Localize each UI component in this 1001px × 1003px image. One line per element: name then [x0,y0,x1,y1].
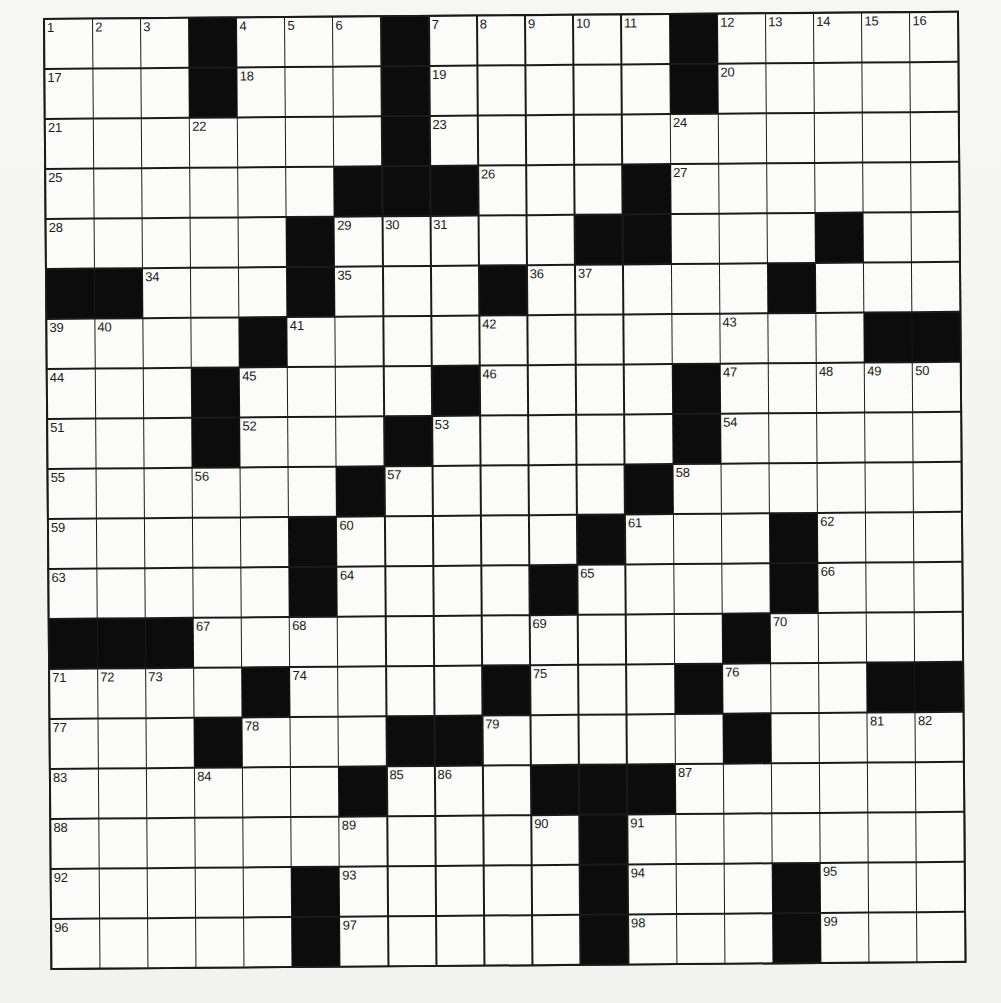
crossword-cell[interactable] [386,617,433,666]
crossword-cell[interactable] [433,466,480,515]
crossword-cell[interactable]: 37 [576,265,623,314]
crossword-cell[interactable]: 40 [95,319,142,368]
crossword-cell[interactable]: 5 [285,18,332,67]
crossword-cell[interactable] [389,916,436,965]
crossword-cell[interactable] [627,665,674,714]
crossword-cell[interactable] [191,218,238,267]
crossword-cell[interactable] [94,119,141,168]
crossword-cell[interactable] [142,69,189,118]
crossword-cell[interactable] [388,866,435,915]
crossword-cell[interactable]: 1 [45,20,92,69]
crossword-cell[interactable]: 63 [49,569,96,618]
crossword-cell[interactable]: 54 [721,414,768,463]
crossword-cell[interactable] [815,64,862,113]
crossword-cell[interactable] [244,818,291,867]
crossword-cell[interactable] [147,718,194,767]
crossword-cell[interactable] [142,119,189,168]
crossword-cell[interactable]: 91 [628,815,675,864]
crossword-cell[interactable] [239,268,286,317]
crossword-cell[interactable] [575,115,622,164]
crossword-cell[interactable] [677,914,724,963]
crossword-cell[interactable]: 57 [385,467,432,516]
crossword-cell[interactable] [100,869,147,918]
crossword-cell[interactable] [482,566,529,615]
crossword-cell[interactable] [434,566,481,615]
crossword-cell[interactable]: 41 [288,318,335,367]
crossword-cell[interactable]: 56 [193,468,240,517]
crossword-cell[interactable]: 67 [194,618,241,667]
crossword-cell[interactable] [772,764,819,813]
crossword-cell[interactable] [529,466,576,515]
crossword-cell[interactable] [914,513,961,562]
crossword-cell[interactable]: 97 [341,917,388,966]
crossword-cell[interactable] [911,63,958,112]
crossword-cell[interactable]: 21 [46,120,93,169]
crossword-cell[interactable] [288,368,335,417]
crossword-cell[interactable] [193,518,240,567]
crossword-cell[interactable]: 3 [141,19,188,68]
crossword-cell[interactable] [533,915,580,964]
crossword-cell[interactable] [724,814,771,863]
crossword-cell[interactable] [388,817,435,866]
crossword-cell[interactable] [912,263,959,312]
crossword-cell[interactable] [94,169,141,218]
crossword-cell[interactable] [815,114,862,163]
crossword-cell[interactable]: 52 [240,418,287,467]
crossword-cell[interactable] [529,366,576,415]
crossword-cell[interactable] [767,114,814,163]
crossword-cell[interactable] [336,317,383,366]
crossword-cell[interactable] [527,216,574,265]
crossword-cell[interactable] [145,469,192,518]
crossword-cell[interactable] [579,715,626,764]
crossword-cell[interactable]: 42 [480,316,527,365]
crossword-cell[interactable]: 34 [143,269,190,318]
crossword-cell[interactable] [385,517,432,566]
crossword-cell[interactable] [97,469,144,518]
crossword-cell[interactable] [624,265,671,314]
crossword-cell[interactable] [815,163,862,212]
crossword-cell[interactable] [532,865,579,914]
crossword-cell[interactable]: 68 [290,617,337,666]
crossword-cell[interactable]: 15 [862,13,909,62]
crossword-cell[interactable] [479,216,526,265]
crossword-cell[interactable]: 85 [387,767,434,816]
crossword-cell[interactable]: 27 [671,165,718,214]
crossword-cell[interactable] [144,319,191,368]
crossword-cell[interactable] [196,918,243,967]
crossword-cell[interactable] [769,314,816,363]
crossword-cell[interactable]: 99 [821,913,868,962]
crossword-cell[interactable]: 47 [721,364,768,413]
crossword-cell[interactable] [196,868,243,917]
crossword-cell[interactable] [434,516,481,565]
crossword-cell[interactable]: 72 [98,669,145,718]
crossword-cell[interactable]: 96 [52,919,99,968]
crossword-cell[interactable]: 65 [578,565,625,614]
crossword-cell[interactable] [96,369,143,418]
crossword-cell[interactable]: 48 [817,363,864,412]
crossword-cell[interactable] [917,912,964,961]
crossword-cell[interactable]: 81 [868,713,915,762]
crossword-cell[interactable] [478,116,525,165]
crossword-cell[interactable] [384,267,431,316]
crossword-cell[interactable] [334,117,381,166]
crossword-cell[interactable] [336,367,383,416]
crossword-cell[interactable] [676,814,723,863]
crossword-cell[interactable]: 44 [48,369,95,418]
crossword-cell[interactable]: 36 [528,266,575,315]
crossword-cell[interactable]: 8 [478,16,525,65]
crossword-cell[interactable] [575,165,622,214]
crossword-cell[interactable] [672,315,719,364]
crossword-cell[interactable]: 19 [430,67,477,116]
crossword-cell[interactable]: 70 [771,614,818,663]
crossword-cell[interactable]: 6 [333,17,380,66]
crossword-cell[interactable] [387,667,434,716]
crossword-cell[interactable]: 93 [340,867,387,916]
crossword-cell[interactable] [576,315,623,364]
crossword-cell[interactable] [241,468,288,517]
crossword-cell[interactable] [574,65,621,114]
crossword-cell[interactable] [436,816,483,865]
crossword-cell[interactable] [529,416,576,465]
crossword-cell[interactable]: 14 [814,14,861,63]
crossword-cell[interactable]: 30 [383,217,430,266]
crossword-cell[interactable] [864,213,911,262]
